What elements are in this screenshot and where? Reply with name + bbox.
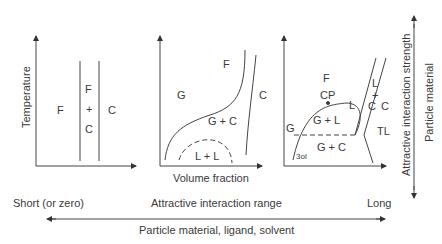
region-f-left: F — [57, 104, 64, 116]
region-c-mid: C — [368, 100, 376, 112]
particle-material-label: Particle material — [423, 63, 435, 142]
region-l-plus-l: L + L — [195, 150, 219, 162]
short-range-label: Short (or zero) — [13, 197, 84, 209]
region-g-plus-l: G + L — [313, 114, 340, 126]
region-g: G — [286, 122, 295, 134]
region-c-mid: C — [85, 123, 93, 135]
interaction-range-label: Attractive interaction range — [151, 197, 282, 209]
particle-ligand-solvent-label: Particle material, ligand, solvent — [139, 224, 294, 236]
region-g: G — [177, 89, 186, 101]
long-range-label: Long — [367, 197, 391, 209]
region-f-mid: F — [85, 83, 92, 95]
region-f: F — [223, 58, 230, 70]
region-c: C — [259, 89, 267, 101]
region-g-plus-c: G + C — [208, 115, 237, 127]
temperature-axis-label: Temperature — [20, 66, 32, 128]
region-plus: + — [86, 103, 92, 115]
region-l-top: L — [372, 77, 378, 89]
volume-fraction-axis-label: Volume fraction — [173, 172, 249, 184]
region-l: L — [349, 99, 355, 111]
region-tl: TL — [377, 125, 390, 137]
region-c-right: C — [108, 104, 116, 116]
region-sol: 3ol — [296, 151, 307, 163]
region-c: C — [381, 100, 389, 112]
critical-point-label: CP — [320, 89, 335, 101]
region-f: F — [323, 72, 330, 84]
region-g-plus-c: G + C — [317, 141, 346, 153]
interaction-strength-label: Attractive interaction strength — [400, 34, 412, 176]
